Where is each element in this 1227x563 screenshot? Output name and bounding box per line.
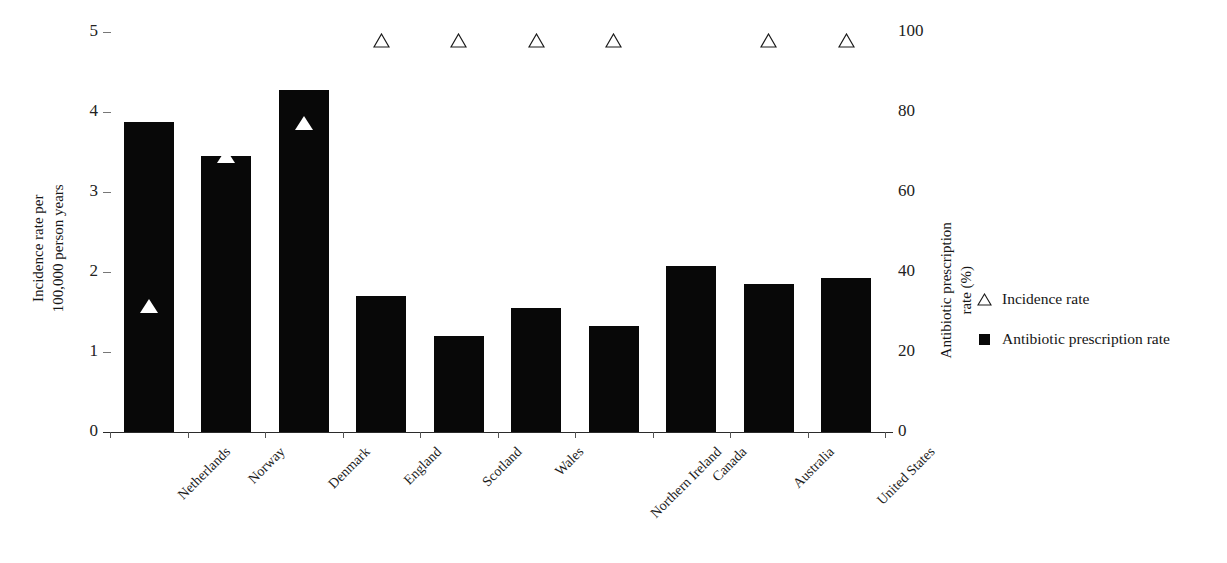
y-axis-right-tick-label: 100	[898, 21, 944, 41]
x-axis-category-label: Denmark	[325, 444, 373, 492]
x-axis-category-label: Wales	[552, 444, 587, 479]
y-axis-right-tick-label: 20	[898, 341, 944, 361]
x-axis-tickmark	[188, 432, 189, 438]
chart-root: Incidence rate per 100,000 person years …	[0, 0, 1227, 563]
bar[interactable]	[434, 336, 484, 432]
incidence-rate-marker[interactable]	[295, 116, 313, 130]
x-axis-tickmark	[343, 432, 344, 438]
incidence-rate-marker[interactable]	[838, 33, 855, 48]
x-axis-tickmark	[420, 432, 421, 438]
bar[interactable]	[124, 122, 174, 432]
x-axis-tickmark	[498, 432, 499, 438]
y-axis-left-tick-label: 5	[58, 21, 98, 41]
legend-item-antibiotic-prescription-rate[interactable]: Antibiotic prescription rate	[975, 330, 1170, 348]
y-axis-left-title-line1: Incidence rate per	[30, 195, 46, 302]
bar[interactable]	[821, 278, 871, 432]
filled-square-icon	[975, 334, 993, 345]
x-axis-category-label: Netherlands	[175, 444, 234, 503]
bar[interactable]	[666, 266, 716, 432]
bar[interactable]	[279, 90, 329, 432]
y-axis-right-tick-label: 0	[898, 421, 944, 441]
x-axis-tickmark	[110, 432, 111, 438]
x-axis-tickmark	[653, 432, 654, 438]
y-axis-left-tick-label: 1	[58, 341, 98, 361]
legend-item-incidence-rate[interactable]: Incidence rate	[975, 290, 1170, 308]
x-axis-tickmark	[730, 432, 731, 438]
bar[interactable]	[511, 308, 561, 432]
incidence-rate-marker[interactable]	[217, 149, 235, 163]
incidence-rate-marker[interactable]	[450, 33, 467, 48]
y-axis-right-tick-label: 40	[898, 261, 944, 281]
y-axis-left-tick-label: 2	[58, 261, 98, 281]
bar[interactable]	[356, 296, 406, 432]
incidence-rate-marker[interactable]	[528, 33, 545, 48]
legend-item-label: Antibiotic prescription rate	[1002, 330, 1170, 348]
bar[interactable]	[744, 284, 794, 432]
y-axis-right-tick-label: 80	[898, 101, 944, 121]
y-axis-left-tick-label: 4	[58, 101, 98, 121]
x-axis-category-label: Australia	[790, 444, 838, 492]
x-axis-tickmark	[808, 432, 809, 438]
bar[interactable]	[589, 326, 639, 432]
y-axis-right-title-line2: rate (%)	[956, 190, 976, 390]
y-axis-left-title: Incidence rate per 100,000 person years	[28, 148, 69, 348]
incidence-rate-marker[interactable]	[760, 33, 777, 48]
legend-item-label: Incidence rate	[1002, 290, 1089, 308]
plot-area	[110, 32, 885, 432]
x-axis-category-label: Norway	[245, 444, 288, 487]
incidence-rate-marker[interactable]	[605, 33, 622, 48]
open-triangle-icon	[975, 293, 993, 306]
y-axis-left-title-line2: 100,000 person years	[48, 148, 68, 348]
chart-legend: Incidence rate Antibiotic prescription r…	[975, 290, 1170, 370]
x-axis-tickmark	[265, 432, 266, 438]
bar[interactable]	[201, 156, 251, 432]
y-axis-left-tick-label: 3	[58, 181, 98, 201]
y-axis-right-title-line1: Antibiotic prescription	[938, 222, 954, 358]
x-axis-category-label: England	[401, 444, 445, 488]
x-axis-category-label: Scotland	[479, 444, 525, 490]
incidence-rate-marker[interactable]	[140, 299, 158, 313]
x-axis-category-label: United States	[874, 444, 938, 508]
y-axis-left-tick-label: 0	[58, 421, 98, 441]
x-axis-tickmark	[575, 432, 576, 438]
x-axis-category-label: Northern Ireland	[647, 444, 725, 522]
incidence-rate-marker[interactable]	[373, 33, 390, 48]
x-axis-tickmark	[885, 432, 886, 438]
y-axis-right-tick-label: 60	[898, 181, 944, 201]
